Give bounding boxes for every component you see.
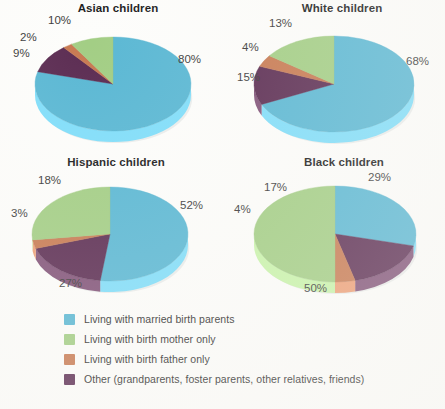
pie-panel-asian-children: Asian children 80%10%2%9% — [0, 2, 222, 157]
legend-item-other: Other (grandparents, foster parents, oth… — [64, 369, 434, 389]
pct-label-married: 68% — [406, 55, 429, 67]
pie-top-faces — [32, 187, 188, 281]
pct-label-father: 4% — [242, 41, 259, 53]
pie-panel-hispanic-children: Hispanic children 52%18%3%27% — [0, 156, 222, 311]
legend-swatch-other — [64, 374, 75, 385]
pie-svg-hispanic-children: 52%18%3%27% — [0, 156, 222, 311]
legend-swatch-birth-mother-only — [64, 334, 75, 345]
pie-top-faces — [35, 37, 191, 131]
legend-swatch-married-birth-parents — [64, 314, 75, 325]
pie-svg-white-children: 68%13%4%15% — [222, 2, 444, 157]
pct-label-other: 17% — [264, 181, 287, 193]
pct-label-mother: 50% — [304, 282, 327, 294]
legend-item-birth-father-only: Living with birth father only — [64, 349, 434, 369]
pie-panel-black-children: Black children 29%17%4%50% — [222, 156, 444, 311]
legend-label-married-birth-parents: Living with married birth parents — [84, 314, 234, 325]
pie-top-faces — [254, 186, 416, 282]
pct-label-other: 13% — [269, 17, 292, 29]
legend-label-birth-father-only: Living with birth father only — [84, 354, 210, 365]
pct-label-father: 2% — [20, 31, 37, 43]
pct-label-married: 29% — [368, 171, 391, 183]
pct-label-married: 52% — [180, 199, 203, 211]
legend-label-other: Other (grandparents, foster parents, oth… — [84, 374, 364, 385]
pct-label-father: 3% — [11, 207, 28, 219]
pct-label-married: 80% — [178, 53, 201, 65]
pct-label-mother: 15% — [237, 71, 260, 83]
pie-top-faces — [254, 36, 414, 132]
pie-svg-asian-children: 80%10%2%9% — [0, 2, 222, 157]
pct-label-mother: 9% — [13, 47, 30, 59]
pct-label-other: 10% — [48, 14, 71, 26]
legend-item-birth-mother-only: Living with birth mother only — [64, 329, 434, 349]
legend-swatch-birth-father-only — [64, 354, 75, 365]
pie-slice[interactable] — [32, 187, 110, 240]
pie-side-wall — [335, 280, 355, 293]
pct-label-mother: 27% — [59, 277, 82, 289]
pie-panel-white-children: White children 68%13%4%15% — [222, 2, 444, 157]
pie-svg-black-children: 29%17%4%50% — [222, 156, 444, 311]
legend-item-married-birth-parents: Living with married birth parents — [64, 309, 434, 329]
legend-label-birth-mother-only: Living with birth mother only — [84, 334, 216, 345]
pct-label-other: 18% — [38, 174, 61, 186]
chart-legend: Living with married birth parents Living… — [64, 309, 434, 389]
pct-label-father: 4% — [234, 203, 251, 215]
